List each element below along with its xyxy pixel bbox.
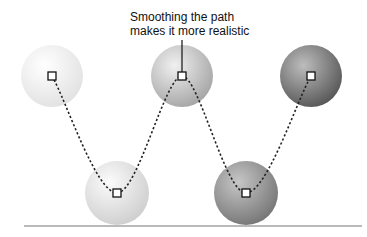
- annotation-caption: Smoothing the path makes it more realist…: [130, 11, 249, 38]
- keyframe-marker-4[interactable]: [242, 189, 250, 197]
- caption-line-2: makes it more realistic: [130, 25, 249, 39]
- keyframe-marker-5[interactable]: [307, 72, 315, 80]
- keyframe-marker-3[interactable]: [178, 72, 186, 80]
- keyframe-marker-1[interactable]: [48, 72, 56, 80]
- caption-line-1: Smoothing the path: [130, 11, 249, 25]
- keyframe-marker-2[interactable]: [113, 189, 121, 197]
